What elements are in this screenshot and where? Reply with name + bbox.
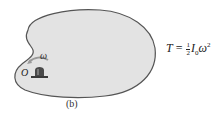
angular-velocity-label: ω	[40, 50, 47, 61]
figure-caption: (b)	[66, 98, 78, 109]
eq-fraction: 12	[186, 42, 190, 57]
rigid-body-diagram	[0, 0, 218, 117]
rigid-body-shape	[15, 10, 155, 98]
eq-equals: =	[176, 41, 183, 55]
kinetic-energy-equation: T=12I0ω2	[166, 41, 210, 57]
eq-fraction-denominator: 2	[186, 50, 190, 57]
pivot-label: O	[21, 67, 28, 78]
eq-superscript: 2	[207, 41, 211, 49]
eq-lhs: T	[166, 41, 173, 55]
eq-symbol-omega: ω	[198, 41, 206, 55]
